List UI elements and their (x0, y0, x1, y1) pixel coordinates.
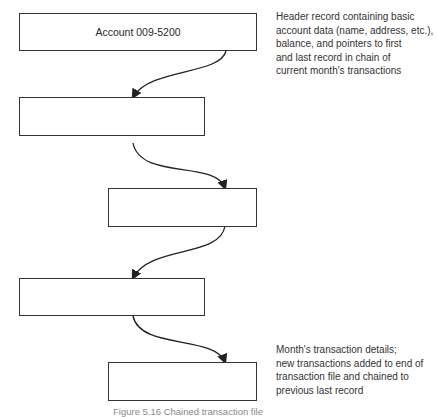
arrow-txn3-to-txn4 (133, 316, 225, 362)
transaction-record-box-4 (108, 362, 257, 401)
arrow-txn1-to-txn2 (133, 143, 225, 188)
transaction-record-box-3 (19, 278, 205, 316)
transactions-annotation: Month's transaction details; new transac… (276, 343, 423, 397)
figure-caption: Figure 5.16 Chained transaction file (113, 406, 263, 417)
transaction-record-box-2 (108, 188, 257, 227)
header-record-box: Account 009-5200 (19, 13, 257, 51)
arrow-header-to-txn1 (133, 51, 226, 97)
header-record-label: Account 009-5200 (95, 26, 180, 38)
header-annotation: Header record containing basic account d… (276, 10, 433, 78)
transaction-record-box-1 (19, 97, 205, 136)
arrow-txn2-to-txn3 (133, 226, 225, 278)
